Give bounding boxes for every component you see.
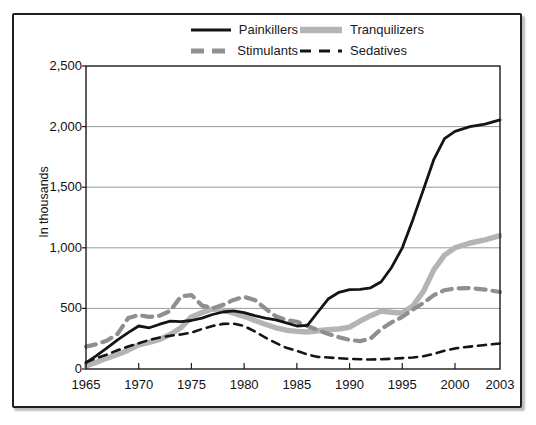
x-tick-label: 1995 (378, 377, 426, 392)
legend-item-tranquilizers: Tranquilizers (298, 22, 424, 37)
x-tick-label: 1965 (62, 377, 110, 392)
y-tick-label: 1,500 (24, 179, 82, 194)
tranquilizers-line-swatch-icon (298, 24, 344, 36)
chart-legend: Painkillers Tranquilizers Stimulants Sed… (189, 22, 424, 58)
legend-label-sedatives: Sedatives (350, 43, 407, 58)
y-tick-label: 2,500 (24, 58, 82, 73)
x-tick-label: 2000 (431, 377, 479, 392)
x-tick-label: 1970 (115, 377, 163, 392)
legend-item-painkillers: Painkillers (189, 22, 298, 37)
legend-item-sedatives: Sedatives (298, 43, 424, 58)
x-tick-label: 1980 (220, 377, 268, 392)
painkillers-line-swatch-icon (189, 24, 233, 36)
sedatives-line-swatch-icon (298, 45, 344, 57)
x-tick-label: 1990 (326, 377, 374, 392)
stimulants-line-swatch-icon (189, 45, 231, 57)
series-line-tranquilizers (86, 236, 500, 366)
y-axis-tick-labels: 05001,0001,5002,0002,500 (24, 0, 82, 425)
x-tick-label: 2003 (476, 377, 524, 392)
legend-item-stimulants: Stimulants (189, 43, 298, 58)
y-tick-label: 0 (24, 361, 82, 376)
series-line-painkillers (86, 120, 500, 363)
x-tick-label: 1975 (167, 377, 215, 392)
x-tick-label: 1985 (273, 377, 321, 392)
y-tick-label: 2,000 (24, 119, 82, 134)
y-tick-label: 1,000 (24, 240, 82, 255)
legend-label-painkillers: Painkillers (239, 22, 298, 37)
legend-label-tranquilizers: Tranquilizers (350, 22, 424, 37)
series-line-stimulants (86, 288, 500, 347)
y-axis-title: In thousands (37, 166, 51, 238)
y-tick-label: 500 (24, 300, 82, 315)
legend-label-stimulants: Stimulants (237, 43, 298, 58)
x-axis-tick-labels: 196519701975198019851990199520002003 (0, 377, 536, 393)
